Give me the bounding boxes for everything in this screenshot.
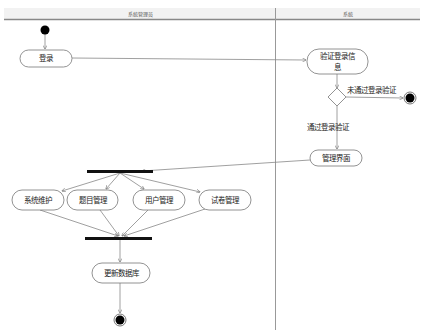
swimlane-header: 系统管理员 系统 [4, 8, 420, 20]
action-verify-login: 验证登录信 息 [307, 49, 368, 74]
action-paper-management: 试卷管理 [199, 190, 251, 210]
lane-title-system: 系统 [343, 11, 353, 18]
action-system-maintenance: 系统维护 [12, 190, 64, 210]
decision-node [328, 88, 346, 106]
svg-text:用户管理: 用户管理 [145, 195, 174, 205]
join-bar [85, 237, 152, 240]
svg-text:题目管理: 题目管理 [79, 195, 108, 205]
action-question-management: 题目管理 [67, 190, 118, 210]
activity-diagram: 系统管理员 系统 登录 验证登录信 息 未通过登录验证 [0, 0, 424, 332]
svg-text:登录: 登录 [39, 53, 54, 63]
svg-text:息: 息 [334, 62, 342, 72]
fork-bar [87, 170, 153, 173]
final-node-fail [404, 92, 416, 104]
action-update-database: 更新数据库 [92, 263, 150, 283]
final-node [114, 314, 126, 326]
svg-text:管理界面: 管理界面 [322, 153, 351, 163]
action-admin-ui: 管理界面 [310, 150, 362, 166]
edge-label-pass: 通过登录验证 [307, 122, 350, 132]
edge-label-fail: 未通过登录验证 [347, 85, 397, 95]
svg-text:更新数据库: 更新数据库 [104, 268, 140, 278]
svg-text:验证登录信: 验证登录信 [320, 51, 356, 61]
lane-title-admin: 系统管理员 [128, 11, 153, 18]
svg-text:系统维护: 系统维护 [24, 195, 52, 205]
action-user-management: 用户管理 [133, 190, 185, 210]
svg-text:试卷管理: 试卷管理 [211, 195, 240, 205]
initial-node [41, 26, 50, 35]
action-login: 登录 [20, 50, 72, 67]
